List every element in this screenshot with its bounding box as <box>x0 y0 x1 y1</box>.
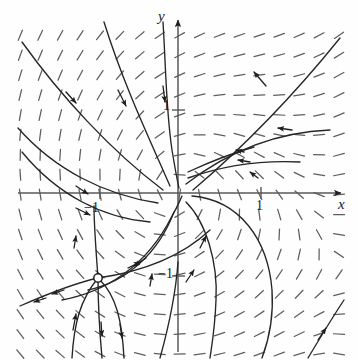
slope-mark <box>235 311 245 316</box>
axes-group <box>18 20 341 352</box>
flow-arrow-icon <box>101 322 102 336</box>
slope-mark <box>38 70 42 80</box>
slope-mark <box>135 252 145 256</box>
trajectory-arrow-group <box>34 72 326 340</box>
slope-mark <box>314 33 324 38</box>
slope-mark <box>295 311 304 317</box>
phase-portrait-canvas <box>0 0 358 360</box>
x-tick-label-minus-1: −1 <box>84 200 99 216</box>
slope-mark <box>274 74 285 76</box>
slope-mark <box>59 110 62 121</box>
slope-mark <box>294 172 304 177</box>
slope-mark <box>97 90 103 100</box>
slope-mark <box>214 74 225 76</box>
slope-mark <box>234 332 244 336</box>
slope-mark <box>136 91 144 99</box>
slope-mark <box>18 269 23 279</box>
slope-mark <box>115 292 125 297</box>
slope-mark <box>236 171 244 179</box>
slope-mark <box>137 150 142 160</box>
slope-mark <box>56 350 64 357</box>
slope-mark <box>136 131 143 140</box>
slope-mark <box>298 229 300 240</box>
slope-mark <box>194 313 205 316</box>
slope-mark <box>76 351 85 357</box>
slope-mark <box>334 72 344 77</box>
phase-portrait-figure: y x 1 −1 1 −1 <box>0 0 358 360</box>
slope-mark <box>238 229 242 239</box>
saddle-point-marker <box>94 274 102 282</box>
slope-mark <box>278 209 281 220</box>
flow-arrow-icon <box>238 160 250 162</box>
slope-mark <box>295 191 303 198</box>
slope-mark <box>214 33 224 37</box>
slope-mark <box>95 351 105 356</box>
slope-mark <box>254 34 264 38</box>
slope-mark <box>36 350 44 358</box>
flow-arrow-icon <box>74 236 76 248</box>
slope-mark <box>194 292 204 296</box>
slope-mark <box>154 334 165 335</box>
y-tick-label-minus-1: −1 <box>158 266 173 282</box>
slope-mark <box>115 332 125 336</box>
slope-mark <box>97 31 104 40</box>
slope-mark <box>274 352 284 356</box>
slope-mark <box>38 30 43 40</box>
slope-mark <box>116 51 123 59</box>
slope-mark <box>274 115 285 116</box>
slope-mark <box>19 110 21 121</box>
slope-mark <box>154 353 165 354</box>
slope-mark <box>234 352 244 355</box>
slope-mark <box>254 332 264 337</box>
flow-arrow-icon <box>134 258 146 266</box>
slope-mark <box>155 52 164 58</box>
slope-mark <box>236 250 242 259</box>
slope-mark <box>155 72 164 78</box>
slope-mark <box>78 90 83 100</box>
slope-mark <box>116 231 124 239</box>
slope-mark <box>296 270 301 280</box>
slope-mark <box>38 229 42 239</box>
slope-mark <box>254 133 265 136</box>
slope-mark <box>19 189 21 200</box>
slope-mark <box>279 229 280 240</box>
slope-mark <box>194 114 205 115</box>
slope-mark <box>334 153 345 156</box>
slope-mark <box>154 254 165 255</box>
slope-mark <box>214 94 225 95</box>
slope-mark <box>316 230 321 240</box>
slope-mark <box>17 350 24 358</box>
slope-mark <box>77 51 83 60</box>
slope-mark <box>334 234 345 236</box>
slope-mark <box>234 95 245 96</box>
slope-mark <box>235 291 244 298</box>
slope-mark <box>314 174 325 176</box>
slope-mark <box>294 134 305 135</box>
slope-mark <box>274 33 284 37</box>
slope-mark <box>20 169 21 180</box>
slope-mark <box>216 250 224 258</box>
slope-mark <box>115 312 125 316</box>
slope-mark <box>214 353 225 356</box>
y-axis-label: y <box>158 8 165 25</box>
slope-mark <box>77 250 83 259</box>
slope-mark <box>194 73 204 76</box>
slope-mark <box>97 51 104 60</box>
slope-mark <box>117 130 122 140</box>
slope-mark <box>195 33 205 38</box>
slope-mark <box>174 113 184 117</box>
slope-mark <box>276 270 282 279</box>
slope-mark <box>40 129 41 140</box>
trajectory <box>193 38 340 190</box>
slope-mark <box>298 249 300 260</box>
slope-mark <box>37 330 44 338</box>
slope-mark <box>57 31 62 41</box>
slope-mark <box>155 213 165 217</box>
slope-mark <box>214 134 225 136</box>
slope-mark <box>174 334 185 335</box>
slope-mark <box>296 210 301 220</box>
y-tick-label-1: 1 <box>163 98 170 114</box>
trajectory <box>100 280 124 358</box>
slope-mark <box>257 249 262 259</box>
slope-mark <box>19 90 22 101</box>
